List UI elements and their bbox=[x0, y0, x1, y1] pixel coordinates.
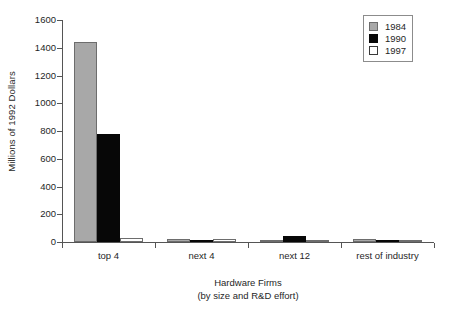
legend-item-1990[interactable]: 1990 bbox=[369, 33, 406, 44]
y-axis-tick-label: 0 bbox=[24, 237, 56, 247]
y-axis-title: Millions of 1992 Dollars bbox=[2, 0, 20, 243]
y-axis-tick-label: 1000 bbox=[24, 98, 56, 108]
x-axis-tick-label: next 12 bbox=[248, 251, 341, 261]
bar-top-4-1984[interactable] bbox=[74, 42, 97, 242]
x-axis-tick-label: next 4 bbox=[155, 251, 248, 261]
y-axis-tick-label: 600 bbox=[24, 154, 56, 164]
y-axis-tick-label: 1200 bbox=[24, 71, 56, 81]
bar-top-4-1997[interactable] bbox=[120, 238, 143, 242]
bar-group bbox=[74, 20, 143, 242]
y-axis-tick bbox=[57, 159, 62, 160]
bar-next-12-1990[interactable] bbox=[283, 236, 306, 242]
y-axis-tick bbox=[57, 76, 62, 77]
bar-next-4-1984[interactable] bbox=[167, 239, 190, 242]
y-axis-tick bbox=[57, 131, 62, 132]
bar-group bbox=[260, 20, 329, 242]
bar-rest-of-industry-1990[interactable] bbox=[376, 240, 399, 242]
x-axis-title-line1: Hardware Firms bbox=[62, 276, 434, 289]
bar-next-4-1990[interactable] bbox=[190, 240, 213, 242]
bar-rest-of-industry-1984[interactable] bbox=[353, 239, 376, 242]
legend-item-label: 1997 bbox=[385, 46, 406, 56]
y-axis-tick bbox=[57, 20, 62, 21]
bar-chart-figure: Millions of 1992 Dollars 160014001200100… bbox=[0, 0, 449, 313]
y-axis-tick-label: 200 bbox=[24, 209, 56, 219]
x-axis-title: Hardware Firms (by size and R&D effort) bbox=[62, 276, 434, 302]
bar-rest-of-industry-1997[interactable] bbox=[399, 240, 422, 242]
y-axis-tick-label: 400 bbox=[24, 182, 56, 192]
legend-swatch-icon bbox=[369, 22, 378, 31]
x-axis-tick bbox=[155, 243, 156, 248]
legend-swatch-icon bbox=[369, 46, 378, 55]
y-axis-tick bbox=[57, 48, 62, 49]
x-axis-title-line2: (by size and R&D effort) bbox=[62, 289, 434, 302]
bar-top-4-1990[interactable] bbox=[97, 134, 120, 242]
y-axis-tick bbox=[57, 187, 62, 188]
y-axis-tick bbox=[57, 103, 62, 104]
bar-group bbox=[167, 20, 236, 242]
x-axis-tick-label: top 4 bbox=[62, 251, 155, 261]
y-axis-line bbox=[62, 20, 63, 243]
legend: 198419901997 bbox=[363, 15, 413, 62]
y-axis-tick-label: 1400 bbox=[24, 43, 56, 53]
legend-item-label: 1990 bbox=[385, 34, 406, 44]
x-axis-tick bbox=[341, 243, 342, 248]
x-axis-tick bbox=[434, 243, 435, 248]
legend-item-1984[interactable]: 1984 bbox=[369, 21, 406, 32]
y-axis-tick-labels: 16001400120010008006004002000 bbox=[20, 20, 56, 243]
legend-item-label: 1984 bbox=[385, 22, 406, 32]
legend-swatch-icon bbox=[369, 34, 378, 43]
bar-next-12-1997[interactable] bbox=[306, 240, 329, 242]
y-axis-tick-label: 800 bbox=[24, 126, 56, 136]
x-axis-tick bbox=[62, 243, 63, 248]
y-axis-tick-label: 1600 bbox=[24, 15, 56, 25]
y-axis-tick bbox=[57, 214, 62, 215]
x-axis-tick-label: rest of industry bbox=[341, 251, 434, 261]
y-axis-title-text: Millions of 1992 Dollars bbox=[6, 71, 17, 172]
x-axis-tick bbox=[248, 243, 249, 248]
legend-item-1997[interactable]: 1997 bbox=[369, 45, 406, 56]
bar-next-12-1984[interactable] bbox=[260, 240, 283, 242]
bar-next-4-1997[interactable] bbox=[213, 239, 236, 242]
